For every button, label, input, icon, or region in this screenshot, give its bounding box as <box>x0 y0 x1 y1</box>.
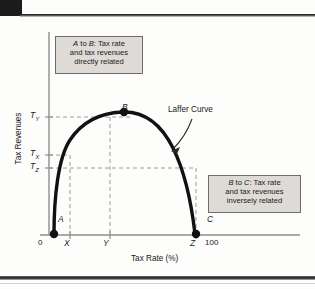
page-corner-block <box>0 0 22 16</box>
y-tick-label-ty: TY <box>30 110 39 122</box>
bottom-divider-rule-secondary <box>0 283 315 284</box>
point-c-marker <box>192 230 200 238</box>
laffer-curve-path <box>54 112 195 234</box>
y-axis-title: Tax Revenues <box>14 102 23 176</box>
bottom-divider-rule <box>0 276 315 280</box>
x-tick-label-x: X <box>64 238 70 248</box>
laffer-curve-label: Laffer Curve <box>168 105 213 114</box>
y-tick-label-ty-sub: Y <box>35 116 39 122</box>
annotation-a-to-b-rest: : Tax rate <box>94 39 125 48</box>
annotation-a-to-b: A to B: Tax rate and tax revenues direct… <box>55 36 143 74</box>
y-tick-label-tx: TX <box>30 148 39 160</box>
annotation-a-to-b-line2: and tax revenues <box>70 48 128 57</box>
annotation-b-to-c-to1: to <box>233 178 244 187</box>
point-a-marker <box>50 230 58 238</box>
figure-page: A to B: Tax rate and tax revenues direct… <box>0 0 315 289</box>
annotation-a-to-b-line3: directly related <box>74 57 123 66</box>
top-divider-rule <box>20 14 315 17</box>
y-tick-label-tx-sub: X <box>35 154 39 160</box>
y-tick-label-tz: TZ <box>30 161 39 173</box>
x-axis-title: Tax Rate (%) <box>131 254 178 263</box>
annotation-b-to-c-rest: : Tax rate <box>250 178 281 187</box>
x-tick-label-100: 100 <box>205 238 218 247</box>
y-tick-label-tz-sub: Z <box>35 167 39 173</box>
annotation-b-to-c-line1: B to C: Tax rate <box>228 178 280 187</box>
point-label-c: C <box>207 214 213 224</box>
x-tick-label-y: Y <box>103 238 109 248</box>
annotation-b-to-c: B to C: Tax rate and tax revenues invers… <box>208 175 301 213</box>
annotation-b-to-c-line2: and tax revenues <box>225 187 283 196</box>
laffer-curve-figure: A to B: Tax rate and tax revenues direct… <box>0 18 315 274</box>
annotation-b-to-c-line3: inversely related <box>227 196 282 205</box>
laffer-curve-arrow <box>173 119 192 149</box>
annotation-a-to-b-to1: to <box>78 39 89 48</box>
annotation-a-to-b-line1: A to B: Tax rate <box>73 39 125 48</box>
x-tick-label-z: Z <box>190 238 195 248</box>
point-label-b: B <box>122 102 128 112</box>
x-tick-label-0: 0 <box>38 238 42 247</box>
point-label-a: A <box>58 214 64 224</box>
chart-svg <box>0 18 315 274</box>
